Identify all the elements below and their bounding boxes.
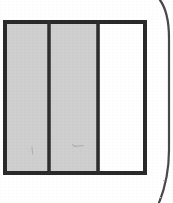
panel-group: [5, 22, 145, 173]
panel-left: [5, 22, 47, 173]
panel-middle: [51, 22, 96, 173]
figure-canvas: [0, 0, 173, 203]
scanned-page: [0, 0, 173, 203]
faint-tick-left-panel: [32, 147, 33, 154]
panel-right: [100, 22, 145, 173]
